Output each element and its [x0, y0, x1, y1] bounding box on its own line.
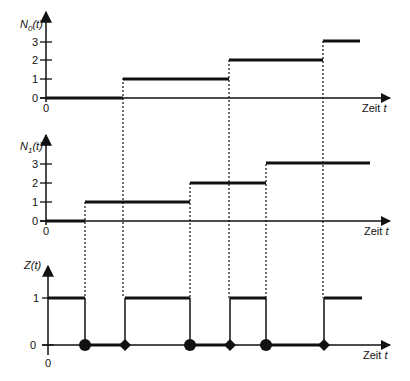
- n0-step-line: [46, 41, 360, 98]
- n1-origin-label: 0: [43, 225, 49, 237]
- n0-y-label: N0(t): [20, 18, 43, 33]
- z-origin-label: 0: [45, 357, 51, 369]
- n1-tick-1: 1: [32, 196, 38, 208]
- counting-process-diagram: 0 1 2 3 0 N0(t) Zeit t 0 1 2 3 0 N1(t) Z…: [0, 0, 410, 381]
- n1-tick-2: 2: [32, 177, 38, 189]
- n1-event-marker-circle: [184, 339, 196, 351]
- n1-tick-0: 0: [32, 215, 38, 227]
- z-y-label: Z(t): [23, 259, 41, 271]
- z-tick-1: 1: [33, 292, 39, 304]
- n1-step-line: [46, 163, 370, 221]
- n0-x-label: Zeit t: [362, 102, 387, 114]
- z-step-line: [48, 298, 362, 345]
- z-tick-0: 0: [30, 339, 36, 351]
- n1-x-label: Zeit t: [364, 225, 389, 237]
- panel-n1: 0 1 2 3 0 N1(t) Zeit t: [20, 135, 390, 237]
- panel-n0: 0 1 2 3 0 N0(t) Zeit t: [20, 12, 390, 114]
- n1-tick-3: 3: [32, 158, 38, 170]
- n0-event-marker-diamond: [318, 339, 330, 351]
- n0-tick-0: 0: [32, 92, 38, 104]
- n1-event-marker-circle: [260, 339, 272, 351]
- n0-tick-3: 3: [32, 36, 38, 48]
- n1-event-marker-circle: [79, 339, 91, 351]
- z-x-label: Zeit t: [363, 349, 388, 361]
- n0-event-marker-diamond: [119, 339, 131, 351]
- panel-z: 0 1 0 Z(t) Zeit t: [23, 259, 390, 369]
- n0-tick-2: 2: [32, 54, 38, 66]
- n0-tick-1: 1: [32, 73, 38, 85]
- n0-origin-label: 0: [43, 102, 49, 114]
- n0-event-marker-diamond: [224, 339, 236, 351]
- n1-y-label: N1(t): [20, 140, 43, 155]
